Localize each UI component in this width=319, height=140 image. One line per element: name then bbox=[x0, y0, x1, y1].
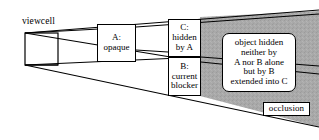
object-box-hidden-description: object hidden neither by A nor B alone b… bbox=[222, 33, 296, 92]
object-box-a: A: opaque bbox=[97, 24, 136, 62]
viewcell-label: viewcell bbox=[22, 16, 55, 26]
object-box-b: B: current blocker bbox=[168, 57, 201, 96]
occlusion-diagram-figure: viewcell A: opaque C: hidden by A B: cur… bbox=[0, 0, 319, 140]
object-box-c: C: hidden by A bbox=[168, 19, 201, 57]
occlusion-region-label: occlusion bbox=[263, 102, 310, 116]
